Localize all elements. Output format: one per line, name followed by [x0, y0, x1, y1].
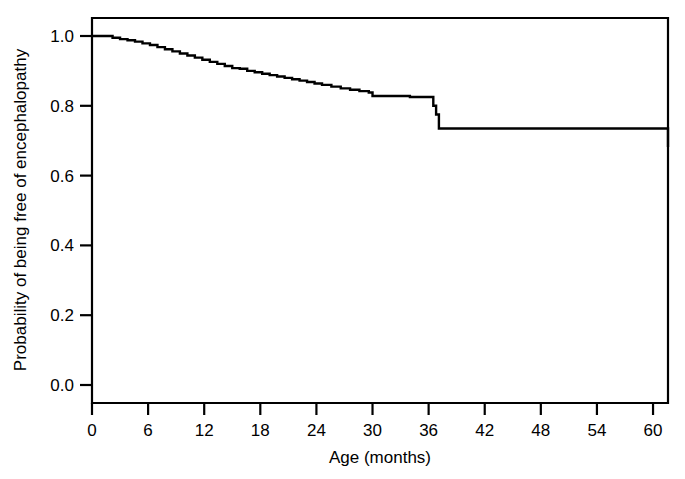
- x-tick-label: 18: [251, 421, 270, 440]
- x-axis-title: Age (months): [329, 448, 431, 467]
- y-tick-label: 1.0: [50, 27, 74, 46]
- x-axis-tick-label-group: 06121824303642485460: [87, 421, 662, 440]
- chart-canvas: 0.00.20.40.60.81.0 06121824303642485460 …: [0, 0, 685, 479]
- km-survival-figure: 0.00.20.40.60.81.0 06121824303642485460 …: [0, 0, 685, 479]
- x-tick-label: 36: [419, 421, 438, 440]
- y-tick-label: 0.2: [50, 306, 74, 325]
- y-tick-label: 0.8: [50, 97, 74, 116]
- x-tick-label: 24: [307, 421, 326, 440]
- x-tick-label: 12: [195, 421, 214, 440]
- y-axis-title: Probability of being free of encephalopa…: [11, 48, 30, 371]
- y-axis-tick-label-group: 0.00.20.40.60.81.0: [50, 27, 74, 395]
- x-tick-label: 54: [587, 421, 606, 440]
- x-tick-label: 0: [87, 421, 96, 440]
- y-tick-label: 0.4: [50, 236, 74, 255]
- x-tick-label: 60: [644, 421, 663, 440]
- x-tick-label: 42: [475, 421, 494, 440]
- x-axis-tick-mark-group: [92, 403, 653, 415]
- y-tick-label: 0.0: [50, 376, 74, 395]
- y-tick-label: 0.6: [50, 167, 74, 186]
- plot-frame: [92, 18, 668, 403]
- x-tick-label: 6: [143, 421, 152, 440]
- survival-curve: [92, 36, 668, 147]
- y-axis-tick-mark-group: [80, 36, 92, 385]
- x-tick-label: 48: [531, 421, 550, 440]
- x-tick-label: 30: [363, 421, 382, 440]
